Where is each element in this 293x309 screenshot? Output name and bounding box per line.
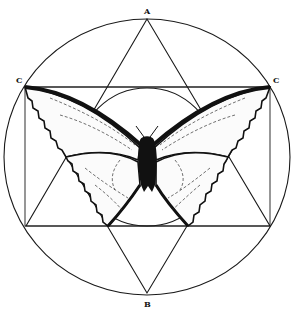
antennae xyxy=(136,126,158,137)
label-right-corner: C xyxy=(273,76,279,84)
label-bottom-vertex: B xyxy=(144,300,151,308)
butterfly-body xyxy=(138,136,157,192)
label-top-vertex: A xyxy=(144,7,150,15)
butterfly xyxy=(25,87,270,226)
right-hindwing xyxy=(156,153,228,226)
label-left-corner: C xyxy=(16,76,22,84)
right-forewing xyxy=(154,87,270,160)
left-forewing xyxy=(25,87,140,160)
left-hindwing xyxy=(66,153,140,226)
